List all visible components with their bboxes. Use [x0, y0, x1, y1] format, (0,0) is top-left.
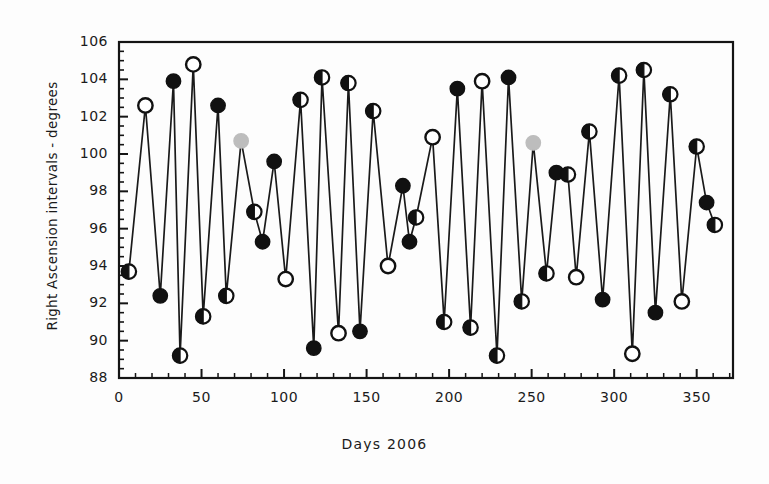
data-point-marker	[409, 210, 423, 224]
x-tick-label: 200	[419, 389, 479, 405]
data-point-marker	[138, 98, 152, 112]
data-point-marker	[315, 70, 329, 84]
data-point-marker	[196, 309, 210, 323]
data-markers	[122, 57, 722, 363]
data-point-marker	[425, 130, 439, 144]
data-point-marker	[293, 93, 307, 107]
data-point-marker	[437, 315, 451, 329]
data-point-marker	[366, 104, 380, 118]
data-point-marker	[675, 294, 689, 308]
data-point-marker	[490, 348, 504, 362]
data-point-marker	[173, 348, 187, 362]
data-point-marker	[501, 70, 515, 84]
data-point-marker	[341, 76, 355, 90]
x-tick-label: 300	[584, 389, 644, 405]
data-point-marker	[153, 289, 167, 303]
data-point-marker	[219, 289, 233, 303]
data-point-marker	[539, 266, 553, 280]
x-tick-label: 0	[89, 389, 149, 405]
data-point-marker	[186, 57, 200, 71]
data-point-marker	[561, 167, 575, 181]
data-point-marker	[708, 218, 722, 232]
x-tick-label: 350	[667, 389, 727, 405]
data-point-marker	[595, 292, 609, 306]
chart-figure: Right Ascension intervals - degrees 8890…	[0, 0, 769, 484]
data-point-marker	[463, 320, 477, 334]
data-point-marker	[353, 324, 367, 338]
x-axis-title: Days 2006	[0, 436, 769, 452]
plot-area	[0, 0, 769, 484]
data-point-marker	[307, 341, 321, 355]
data-point-marker	[211, 98, 225, 112]
data-point-marker	[247, 205, 261, 219]
x-tick-label: 150	[337, 389, 397, 405]
data-point-marker	[122, 264, 136, 278]
data-point-marker	[515, 294, 529, 308]
data-point-marker	[582, 124, 596, 138]
data-point-marker	[637, 63, 651, 77]
x-tick-label: 50	[172, 389, 232, 405]
data-point-marker	[402, 235, 416, 249]
data-point-marker	[625, 347, 639, 361]
data-point-marker	[689, 139, 703, 153]
data-point-marker	[526, 136, 540, 150]
data-point-marker	[475, 74, 489, 88]
data-point-marker	[663, 87, 677, 101]
data-point-marker	[699, 195, 713, 209]
data-point-marker	[648, 305, 662, 319]
data-point-marker	[279, 272, 293, 286]
x-tick-label: 250	[502, 389, 562, 405]
data-point-marker	[612, 68, 626, 82]
data-point-marker	[381, 259, 395, 273]
data-point-marker	[255, 235, 269, 249]
x-tick-label: 100	[254, 389, 314, 405]
data-point-marker	[450, 81, 464, 95]
data-point-marker	[396, 179, 410, 193]
data-point-marker	[331, 326, 345, 340]
data-point-marker	[267, 154, 281, 168]
data-point-marker	[569, 270, 583, 284]
data-point-marker	[234, 134, 248, 148]
data-point-marker	[166, 74, 180, 88]
